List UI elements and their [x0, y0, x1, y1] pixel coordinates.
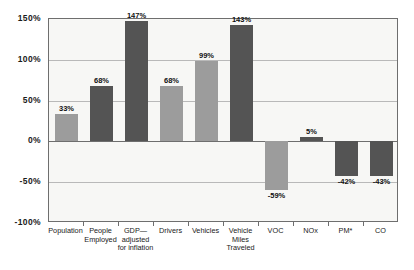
bar[interactable] — [265, 141, 287, 189]
bar-slot: 68% — [84, 19, 119, 221]
bar-value-label: 99% — [189, 51, 224, 60]
x-axis-category-labels: PopulationPeople EmployedGDP— adjusted f… — [48, 227, 398, 269]
bar-value-label: 68% — [84, 76, 119, 85]
bar-value-label: 33% — [49, 104, 84, 113]
x-axis-tick — [118, 222, 119, 226]
bar[interactable] — [55, 114, 77, 141]
bar-value-label: -59% — [259, 191, 294, 200]
bar[interactable] — [300, 137, 322, 141]
bar[interactable] — [90, 86, 112, 141]
bar[interactable] — [125, 21, 147, 141]
x-axis-tick — [363, 222, 364, 226]
y-axis-tick-label: 150% — [18, 13, 41, 23]
bar[interactable] — [370, 141, 392, 176]
x-axis-tick — [293, 222, 294, 226]
bar-slot: -42% — [329, 19, 364, 221]
bar-value-label: 5% — [294, 127, 329, 136]
x-axis-tick — [328, 222, 329, 226]
bar-slot: 5% — [294, 19, 329, 221]
bar-slot: -59% — [259, 19, 294, 221]
bar-slot: 99% — [189, 19, 224, 221]
x-axis-tick — [258, 222, 259, 226]
y-axis-tick-label: 0% — [28, 135, 41, 145]
y-axis-tick-labels: 150%100%50%0%-50%-100% — [0, 18, 44, 222]
bar-value-label: -42% — [329, 177, 364, 186]
bar-value-label: 68% — [154, 76, 189, 85]
y-axis-tick-label: -100% — [14, 217, 41, 227]
bar-value-label: 143% — [224, 15, 259, 24]
y-axis-tick-label: 50% — [23, 95, 41, 105]
bar-slot: 147% — [119, 19, 154, 221]
bar[interactable] — [335, 141, 357, 175]
x-axis-tick — [223, 222, 224, 226]
x-axis-category-label: CO — [357, 227, 404, 236]
bar[interactable] — [195, 61, 217, 142]
x-axis-tick — [83, 222, 84, 226]
x-axis-tick — [188, 222, 189, 226]
y-axis-tick-label: -50% — [20, 176, 41, 186]
x-axis-tick — [153, 222, 154, 226]
bar[interactable] — [160, 86, 182, 141]
bar[interactable] — [230, 25, 252, 142]
bar-value-label: -43% — [364, 177, 399, 186]
bar-slot: 68% — [154, 19, 189, 221]
bar-series: 33%68%147%68%99%143%-59%5%-42%-43% — [49, 19, 397, 221]
bar-slot: 143% — [224, 19, 259, 221]
plot-area: 33%68%147%68%99%143%-59%5%-42%-43% — [48, 18, 398, 222]
bar-slot: 33% — [49, 19, 84, 221]
bar-value-label: 147% — [119, 11, 154, 20]
y-axis-tick-label: 100% — [18, 54, 41, 64]
bar-slot: -43% — [364, 19, 399, 221]
bar-chart: 150%100%50%0%-50%-100% 33%68%147%68%99%1… — [0, 0, 414, 270]
